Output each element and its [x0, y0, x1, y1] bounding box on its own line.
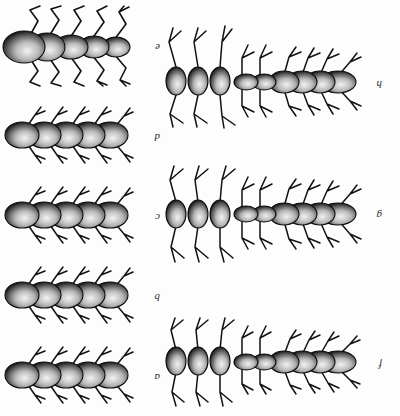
specimen-panel-e	[0, 6, 138, 86]
specimen-panel-d	[4, 106, 134, 164]
specimen-drawing-d	[4, 106, 134, 164]
panel-label-b: b	[155, 292, 161, 304]
specimen-drawing-a	[4, 346, 134, 404]
figure-plate: f	[0, 0, 400, 416]
specimen-drawing-f	[167, 316, 372, 408]
panel-label-c: c	[155, 212, 160, 224]
panel-label-f: f	[379, 359, 382, 371]
specimen-panel-f	[167, 316, 372, 408]
specimen-panel-a	[4, 346, 134, 404]
panel-label-h: h	[377, 79, 383, 91]
specimen-panel-c	[4, 186, 134, 244]
specimen-drawing-g	[167, 164, 372, 264]
panel-label-d: d	[155, 132, 161, 144]
specimen-panel-h	[167, 24, 372, 128]
specimen-drawing-b	[4, 266, 134, 324]
panel-label-e: e	[155, 42, 160, 54]
specimen-drawing-h	[167, 24, 372, 128]
specimen-panel-b	[4, 266, 134, 324]
panel-label-g: g	[377, 210, 383, 222]
specimen-panel-g	[167, 164, 372, 264]
specimen-drawing-e	[0, 6, 138, 86]
specimen-drawing-c	[4, 186, 134, 244]
panel-label-a: a	[155, 372, 161, 384]
